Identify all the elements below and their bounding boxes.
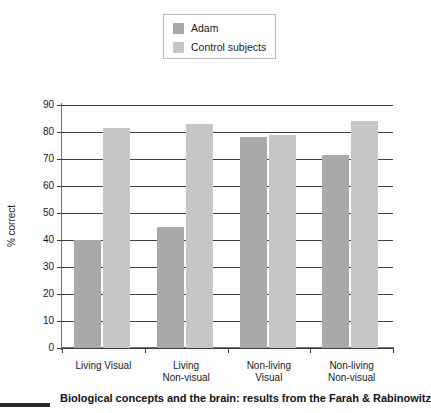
- bar: [186, 124, 213, 348]
- bar-group: [310, 105, 393, 348]
- x-tick-label-line: Visual: [228, 372, 311, 384]
- x-tick-label-line: Non-living: [228, 360, 311, 372]
- y-tick-label: 60: [43, 181, 54, 191]
- y-tick-label: 70: [43, 154, 54, 164]
- bar: [74, 240, 101, 348]
- y-axis-title: % correct: [7, 205, 17, 247]
- x-tick-mark: [228, 348, 229, 353]
- chart-legend: Adam Control subjects: [163, 14, 276, 59]
- x-tick-label-line: Non-visual: [145, 372, 228, 384]
- x-tick-label-line: Non-visual: [310, 372, 393, 384]
- y-tick-label: 40: [43, 235, 54, 245]
- x-tick-label: LivingNon-visual: [145, 360, 228, 384]
- y-tick-label: 90: [43, 100, 54, 110]
- x-tick-mark: [62, 348, 63, 353]
- plot-area: 0102030405060708090Living VisualLivingNo…: [62, 105, 393, 348]
- bar-group: [62, 105, 145, 348]
- y-tick-label: 10: [43, 316, 54, 326]
- figure-caption: Biological concepts and the brain: resul…: [60, 391, 431, 405]
- y-tick-label: 80: [43, 127, 54, 137]
- bar-group: [228, 105, 311, 348]
- bar: [269, 135, 296, 348]
- x-tick-label-line: Living Visual: [62, 360, 145, 372]
- bar: [322, 155, 349, 348]
- x-tick-mark: [310, 348, 311, 353]
- x-tick-label: Living Visual: [62, 360, 145, 372]
- caption-rule: [0, 403, 50, 407]
- x-tick-mark: [145, 348, 146, 353]
- bar: [157, 227, 184, 349]
- legend-label-adam: Adam: [191, 23, 218, 34]
- legend-swatch-control-subjects: [173, 42, 184, 53]
- x-tick-mark: [393, 348, 394, 353]
- bar: [240, 137, 267, 348]
- y-tick-label: 20: [43, 289, 54, 299]
- legend-entry-adam: Adam: [173, 20, 275, 37]
- y-tick-label: 50: [43, 208, 54, 218]
- x-tick-label-line: Non-living: [310, 360, 393, 372]
- x-tick-label-line: Living: [145, 360, 228, 372]
- bar: [103, 128, 130, 348]
- y-tick-label: 0: [48, 343, 54, 353]
- bar: [351, 121, 378, 348]
- legend-label-control-subjects: Control subjects: [191, 42, 266, 53]
- legend-entry-control-subjects: Control subjects: [173, 39, 275, 56]
- legend-swatch-adam: [173, 23, 184, 34]
- bar-group: [145, 105, 228, 348]
- x-tick-label: Non-livingVisual: [228, 360, 311, 384]
- x-tick-label: Non-livingNon-visual: [310, 360, 393, 384]
- y-tick-label: 30: [43, 262, 54, 272]
